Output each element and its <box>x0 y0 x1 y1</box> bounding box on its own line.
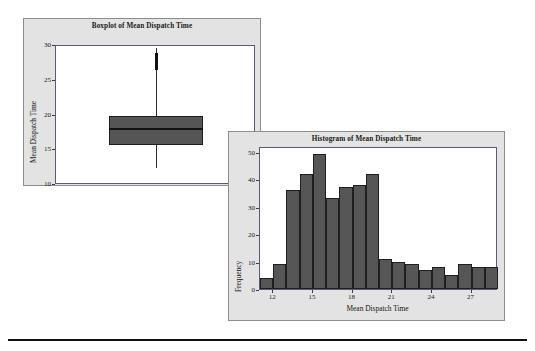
histogram-bar <box>432 267 445 289</box>
histogram-x-tick-mark <box>272 290 273 293</box>
histogram-bar <box>419 270 432 289</box>
histogram-x-tick-label: 12 <box>269 293 276 301</box>
boxplot-y-tick-mark <box>52 184 55 185</box>
histogram-x-tick-mark <box>471 290 472 293</box>
histogram-bar <box>392 262 405 290</box>
boxplot-y-tick-label: 15 <box>36 145 51 153</box>
boxplot-outlier-point <box>155 56 158 59</box>
histogram-y-tick-label: 20 <box>240 231 255 239</box>
histogram-bar <box>405 264 418 289</box>
histogram-y-tick-mark <box>256 290 259 291</box>
histogram-y-tick-mark <box>256 153 259 154</box>
histogram-bar <box>300 174 313 290</box>
histogram-title: Histogram of Mean Dispatch Time <box>229 135 504 143</box>
histogram-x-axis-title: Mean Dispatch Time <box>259 304 496 313</box>
histogram-plot-area <box>259 147 497 290</box>
boxplot-y-tick-label: 25 <box>36 76 51 84</box>
histogram-y-tick-label: 0 <box>240 286 255 294</box>
histogram-y-tick-mark <box>256 180 259 181</box>
boxplot-outlier-point <box>155 61 158 64</box>
histogram-y-tick-label: 10 <box>240 259 255 267</box>
histogram-bar <box>458 264 471 289</box>
histogram-y-tick-mark <box>256 263 259 264</box>
histogram-bar <box>286 190 299 289</box>
boxplot-title: Boxplot of Mean Dispatch Time <box>24 22 260 30</box>
figure-container: Boxplot of Mean Dispatch Time Mean Dispa… <box>0 0 535 351</box>
histogram-x-tick-label: 21 <box>388 293 395 301</box>
histogram-bar <box>313 154 326 289</box>
boxplot-outlier-point <box>155 58 158 61</box>
histogram-bar <box>485 267 498 289</box>
boxplot-outlier-point <box>155 53 158 56</box>
bottom-divider-rule <box>8 339 527 341</box>
boxplot-median-line <box>109 128 203 130</box>
histogram-bar <box>260 278 273 289</box>
boxplot-y-tick-mark <box>52 149 55 150</box>
histogram-y-tick-mark <box>256 208 259 209</box>
boxplot-y-tick-mark <box>52 115 55 116</box>
boxplot-outlier-point <box>155 67 158 70</box>
boxplot-y-tick-mark <box>52 80 55 81</box>
histogram-bar <box>353 185 366 290</box>
histogram-y-tick-label: 30 <box>240 204 255 212</box>
histogram-bar <box>379 259 392 289</box>
histogram-bar <box>472 267 485 289</box>
histogram-y-tick-mark <box>256 235 259 236</box>
histogram-bar <box>273 264 286 289</box>
boxplot-plot-area <box>55 45 255 184</box>
histogram-y-tick-label: 50 <box>240 149 255 157</box>
boxplot-y-tick-label: 10 <box>36 180 51 188</box>
histogram-bar <box>326 198 339 289</box>
histogram-x-tick-mark <box>312 290 313 293</box>
histogram-x-tick-label: 18 <box>348 293 355 301</box>
histogram-bar <box>339 187 352 289</box>
histogram-x-tick-mark <box>352 290 353 293</box>
histogram-y-tick-label: 40 <box>240 176 255 184</box>
histogram-x-tick-label: 24 <box>427 293 434 301</box>
boxplot-y-tick-label: 20 <box>36 111 51 119</box>
histogram-x-tick-label: 15 <box>308 293 315 301</box>
boxplot-panel: Boxplot of Mean Dispatch Time Mean Dispa… <box>23 18 261 186</box>
histogram-x-tick-mark <box>431 290 432 293</box>
histogram-panel: Histogram of Mean Dispatch Time Frequenc… <box>228 131 505 321</box>
boxplot-outlier-point <box>155 64 158 67</box>
histogram-bar <box>366 174 379 290</box>
histogram-bar <box>445 275 458 289</box>
histogram-x-tick-label: 27 <box>467 293 474 301</box>
boxplot-y-tick-mark <box>52 45 55 46</box>
histogram-x-tick-mark <box>391 290 392 293</box>
boxplot-y-tick-label: 30 <box>36 41 51 49</box>
